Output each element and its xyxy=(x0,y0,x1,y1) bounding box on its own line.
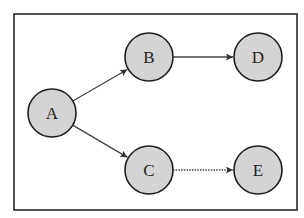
node-label: B xyxy=(143,48,154,67)
edge-a-to-b xyxy=(73,69,128,101)
node-label: C xyxy=(143,161,154,180)
node-a: A xyxy=(28,89,76,137)
node-e: E xyxy=(234,146,282,194)
node-label: A xyxy=(46,104,59,123)
node-d: D xyxy=(234,33,282,81)
node-label: D xyxy=(252,48,264,67)
nodes-layer: ABCDE xyxy=(28,33,282,194)
edge-a-to-c xyxy=(73,125,128,157)
graph-diagram: ABCDE xyxy=(0,0,304,218)
node-label: E xyxy=(253,161,263,180)
node-c: C xyxy=(125,146,173,194)
node-b: B xyxy=(125,33,173,81)
